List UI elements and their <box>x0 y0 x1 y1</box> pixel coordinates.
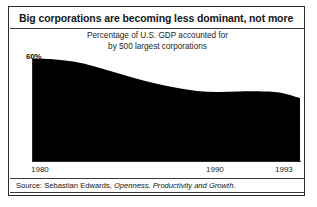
chart-subtitle-line-2: by 500 largest corporations <box>9 42 306 53</box>
chart-subtitle: Percentage of U.S. GDP accounted for by … <box>9 31 306 52</box>
area-chart-svg <box>32 55 300 162</box>
chart-subtitle-line-1: Percentage of U.S. GDP accounted for <box>9 31 306 42</box>
x-tick-label-1980: 1980 <box>31 165 49 174</box>
figure-page: Big corporations are becoming less domin… <box>0 0 317 207</box>
source-divider-top <box>10 178 304 179</box>
x-axis-line <box>32 161 301 162</box>
source-note: Source: Sebastian Edwards, Openness, Pro… <box>16 181 302 190</box>
y-axis-line <box>32 59 33 162</box>
area-series-path <box>32 58 300 162</box>
title-divider <box>10 28 304 29</box>
source-suffix: . <box>233 181 235 190</box>
chart-title: Big corporations are becoming less domin… <box>19 12 299 24</box>
source-work-title: Openness, Productivity and Growth <box>114 181 233 190</box>
x-tick-label-1993: 1993 <box>275 165 293 174</box>
source-divider-bottom <box>10 192 304 193</box>
figure-frame: Big corporations are becoming less domin… <box>8 6 305 196</box>
area-chart-plot <box>32 55 300 162</box>
x-tick-label-1990: 1990 <box>206 165 224 174</box>
source-prefix: Source: Sebastian Edwards, <box>16 181 112 190</box>
x-axis-tick-labels: 1980 1990 1993 <box>9 165 306 177</box>
